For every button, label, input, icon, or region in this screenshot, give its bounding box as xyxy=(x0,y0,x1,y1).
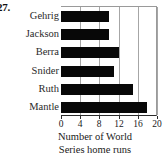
gridline-8 xyxy=(99,7,100,115)
bar xyxy=(61,47,119,58)
x-axis-title-line-2: Series home runs xyxy=(30,143,160,156)
category-label-jackson: Jackson xyxy=(6,28,59,39)
gridline-4 xyxy=(80,7,81,115)
bar-chart-figure: 27. GehrigJacksonBerraSniderRuthMantle 0… xyxy=(0,0,165,160)
x-axis-title: Number of WorldSeries home runs xyxy=(30,130,160,156)
gridline-20 xyxy=(157,7,158,115)
category-label-berra: Berra xyxy=(6,46,59,57)
gridline-12 xyxy=(119,7,120,115)
category-label-snider: Snider xyxy=(6,65,59,76)
gridline-16 xyxy=(138,7,139,115)
bar xyxy=(61,102,147,113)
category-label-ruth: Ruth xyxy=(6,83,59,94)
bar xyxy=(61,66,114,77)
tick-label-8: 8 xyxy=(88,119,110,130)
tick-label-20: 20 xyxy=(146,119,165,130)
x-axis-title-line-1: Number of World xyxy=(30,130,160,143)
y-axis-category-labels: GehrigJacksonBerraSniderRuthMantle xyxy=(6,6,59,116)
category-label-mantle: Mantle xyxy=(6,101,59,112)
bar xyxy=(61,11,109,22)
category-label-gehrig: Gehrig xyxy=(6,10,59,21)
bar xyxy=(61,84,133,95)
plot-area xyxy=(61,6,157,116)
bar xyxy=(61,29,109,40)
